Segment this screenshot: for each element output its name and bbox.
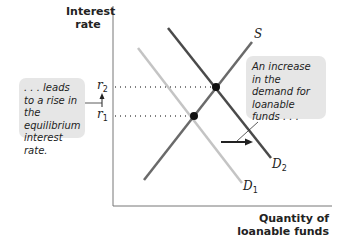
- arrowhead-icon: [245, 139, 253, 146]
- equilibrium-point-r2: [212, 83, 220, 91]
- x-axis-title-line2: loanable funds: [237, 225, 329, 238]
- x-axis-title: Quantity of loanable funds: [237, 212, 329, 238]
- y-axis-title-line2: rate: [66, 18, 110, 31]
- x-axis-title-line1: Quantity of: [237, 212, 329, 225]
- demand-curve-d1: [138, 48, 242, 183]
- supply-curve: [144, 42, 252, 180]
- supply-label: S: [254, 27, 262, 41]
- y-axis-title: Interest rate: [66, 5, 110, 31]
- note-demand-increase: An increase in the demand for loanable f…: [246, 56, 326, 119]
- d2-label-sub: 2: [282, 164, 287, 173]
- y-axis-title-line1: Interest: [66, 5, 110, 18]
- equilibrium-point-r1: [190, 112, 198, 120]
- d1-label-sub: 1: [253, 186, 258, 195]
- note-rate-rise: . . . leads to a rise in the equilibrium…: [19, 78, 85, 138]
- r2-label: r2: [97, 78, 108, 94]
- d2-label: D2: [272, 157, 287, 173]
- r1-label: r1: [97, 107, 108, 123]
- d1-label: D1: [243, 179, 258, 195]
- d2-label-main: D: [272, 157, 282, 171]
- r1-label-sub: 1: [103, 114, 108, 123]
- r2-label-sub: 2: [103, 85, 108, 94]
- d1-label-main: D: [243, 179, 253, 193]
